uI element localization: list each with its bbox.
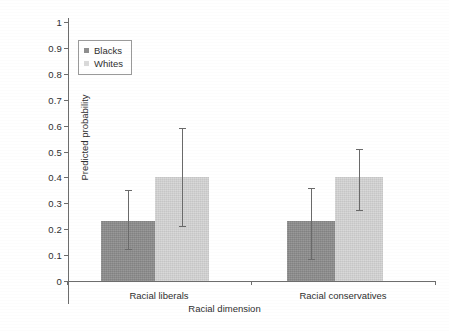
x-tick-label-racial-liberals: Racial liberals xyxy=(129,290,188,301)
y-tick-label: 0.8 xyxy=(48,69,62,80)
error-bar-cap-bottom xyxy=(179,226,186,227)
y-tick-label: 0.9 xyxy=(48,43,62,54)
y-tick-label-group: 1 0.9 0.8 0.7 0.6 0.5 0.4 0.3 0.2 0.1 0 xyxy=(0,0,62,331)
error-bar-cap-bottom xyxy=(308,259,315,260)
error-bar-whites-racial-liberals xyxy=(174,128,190,226)
legend-label: Blacks xyxy=(94,44,122,57)
y-axis-tick xyxy=(64,203,68,204)
error-bar-stem xyxy=(359,149,360,211)
y-tick-label: 0.7 xyxy=(48,95,62,106)
x-tick-label-racial-conservatives: Racial conservatives xyxy=(299,290,386,301)
error-bar-stem xyxy=(182,128,183,226)
y-axis-tick xyxy=(64,22,68,23)
y-tick-label: 0.3 xyxy=(48,198,62,209)
x-axis-tick xyxy=(67,281,68,285)
y-axis-tick xyxy=(64,229,68,230)
legend-swatch-icon xyxy=(84,48,89,53)
y-axis-tick xyxy=(64,126,68,127)
x-axis-title: Racial dimension xyxy=(0,303,449,314)
y-tick-label: 0.6 xyxy=(48,121,62,132)
error-bar-blacks-racial-conservatives xyxy=(303,188,319,261)
legend-item-blacks[interactable]: Blacks xyxy=(84,44,123,57)
legend-label: Whites xyxy=(94,57,123,70)
y-tick-label: 0 xyxy=(57,276,62,287)
y-axis-line xyxy=(68,18,69,304)
x-axis-tick xyxy=(251,281,252,285)
y-tick-label: 0.1 xyxy=(48,250,62,261)
error-bar-cap-bottom xyxy=(125,249,132,250)
legend-item-whites[interactable]: Whites xyxy=(84,57,123,70)
error-bar-whites-racial-conservatives xyxy=(351,149,367,211)
legend-swatch-icon xyxy=(84,61,89,66)
legend: Blacks Whites xyxy=(78,40,132,75)
y-axis-tick xyxy=(64,152,68,153)
error-bar-cap-bottom xyxy=(356,210,363,211)
y-axis-title: Predicted probability xyxy=(79,58,90,218)
y-axis-tick xyxy=(64,100,68,101)
y-axis-tick xyxy=(64,177,68,178)
y-axis-tick xyxy=(64,74,68,75)
error-bar-blacks-racial-liberals xyxy=(120,190,136,250)
y-tick-label: 1 xyxy=(57,17,62,28)
y-tick-label: 0.4 xyxy=(48,172,62,183)
y-tick-label: 0.5 xyxy=(48,147,62,158)
error-bar-stem xyxy=(128,190,129,250)
error-bar-stem xyxy=(311,188,312,261)
x-axis-tick xyxy=(435,281,436,285)
y-tick-label: 0.2 xyxy=(48,224,62,235)
y-axis-tick xyxy=(64,255,68,256)
y-axis-tick xyxy=(64,48,68,49)
bar-chart-figure: 1 0.9 0.8 0.7 0.6 0.5 0.4 0.3 0.2 0.1 0 xyxy=(0,0,449,331)
